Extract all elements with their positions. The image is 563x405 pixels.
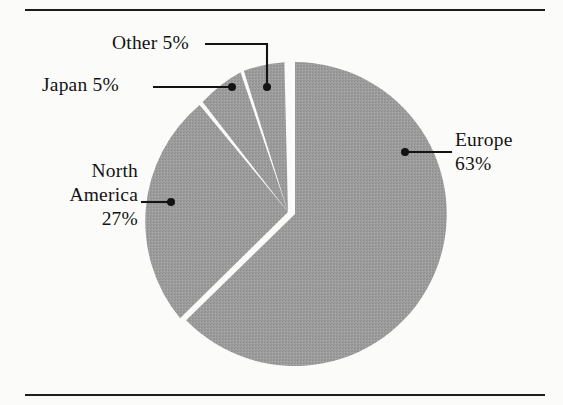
leader-dot-europe	[401, 148, 409, 156]
pie-label-other: Other 5%	[112, 31, 189, 54]
leader-dot-other	[263, 83, 271, 91]
pie-label-europe-name: Europe	[455, 128, 513, 152]
pie-label-north-america: North America 27%	[18, 159, 138, 231]
pie-label-japan-text: Japan 5%	[42, 74, 119, 95]
pie-label-japan: Japan 5%	[42, 73, 119, 96]
pie-slices	[145, 62, 446, 366]
pie-label-europe: Europe 63%	[455, 128, 513, 176]
pie-chart-figure: Other 5% Japan 5% North America 27% Euro…	[0, 0, 563, 405]
leader-dot-north-america	[167, 198, 175, 206]
pie-label-north-america-line2: America	[18, 183, 138, 207]
pie-label-other-text: Other 5%	[112, 32, 189, 53]
leader-dot-japan	[228, 83, 236, 91]
pie-label-europe-percent: 63%	[455, 152, 513, 176]
pie-label-north-america-percent: 27%	[18, 207, 138, 231]
pie-label-north-america-line1: North	[18, 159, 138, 183]
